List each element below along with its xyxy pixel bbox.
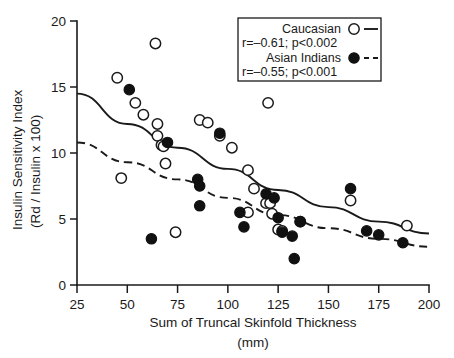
data-point — [215, 128, 225, 138]
y-tick-label: 5 — [58, 212, 66, 227]
legend-label-asian-indians: Asian Indians — [266, 51, 341, 65]
data-point — [269, 193, 279, 203]
legend-stat-caucasian: r=–0.61; p<0.002 — [242, 36, 337, 50]
data-point — [130, 98, 140, 108]
data-point — [239, 222, 249, 232]
x-tick-label: 125 — [267, 297, 290, 312]
data-point — [263, 98, 273, 108]
data-point — [289, 253, 299, 263]
data-point — [345, 195, 355, 205]
data-point — [194, 181, 204, 191]
data-point — [203, 117, 213, 127]
x-axis-ticks: 255075100125150175200 — [69, 285, 440, 312]
data-point — [295, 216, 305, 226]
data-point — [277, 227, 287, 237]
x-tick-label: 25 — [69, 297, 84, 312]
x-tick-label: 100 — [217, 297, 240, 312]
chart-figure: 05101520 255075100125150175200 Insulin S… — [0, 0, 454, 358]
data-point — [160, 158, 170, 168]
x-tick-label: 75 — [170, 297, 185, 312]
y-tick-label: 15 — [51, 80, 66, 95]
legend-filled-circle-icon — [349, 53, 359, 63]
legend: Caucasian r=–0.61; p<0.002 Asian Indians… — [238, 18, 381, 81]
y-axis-title-line1: Insulin Sensitivity Index — [10, 89, 25, 230]
y-tick-label: 10 — [51, 146, 66, 161]
data-point — [345, 183, 355, 193]
data-point — [361, 226, 371, 236]
data-point — [194, 201, 204, 211]
x-tick-label: 175 — [367, 297, 390, 312]
legend-open-circle-icon — [349, 24, 359, 34]
data-point — [273, 212, 283, 222]
data-point — [162, 137, 172, 147]
y-tick-label: 0 — [58, 278, 66, 293]
x-axis-title: Sum of Truncal Skinfold Thickness — [150, 315, 357, 330]
data-point — [152, 119, 162, 129]
data-point — [402, 220, 412, 230]
y-axis-title: Insulin Sensitivity Index (Rd / Insulin … — [10, 89, 43, 230]
data-point — [287, 231, 297, 241]
data-point — [138, 110, 148, 120]
x-axis-units: (mm) — [237, 335, 268, 350]
data-point — [398, 238, 408, 248]
data-point — [112, 73, 122, 83]
data-point — [116, 173, 126, 183]
y-axis-ticks: 05101520 — [51, 14, 77, 293]
legend-label-caucasian: Caucasian — [282, 22, 341, 36]
y-axis-title-line2: (Rd / Insulin x 100) — [28, 115, 43, 228]
data-point — [249, 183, 259, 193]
x-tick-label: 150 — [317, 297, 340, 312]
data-point — [170, 227, 180, 237]
legend-stat-asian-indians: r=–0.55; p<0.001 — [242, 65, 337, 79]
scatter-plot-svg: 05101520 255075100125150175200 Insulin S… — [0, 0, 454, 358]
data-point — [235, 207, 245, 217]
x-tick-label: 50 — [120, 297, 135, 312]
data-point — [374, 230, 384, 240]
data-point — [243, 165, 253, 175]
data-point — [227, 143, 237, 153]
x-tick-label: 200 — [418, 297, 441, 312]
data-point — [150, 38, 160, 48]
data-point — [124, 84, 134, 94]
y-tick-label: 20 — [51, 14, 66, 29]
data-point — [146, 234, 156, 244]
